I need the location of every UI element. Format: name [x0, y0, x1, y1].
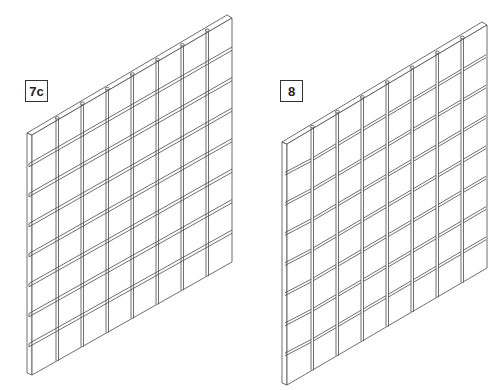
wire-cap [155, 58, 159, 60]
panel-label-text: 7c [29, 84, 43, 99]
wire-cap [335, 111, 339, 113]
wire-cap [55, 117, 59, 119]
grid-panel-8 [282, 22, 487, 385]
wire-cap [435, 51, 439, 53]
wire-cap [80, 102, 84, 104]
wire-cap [385, 81, 389, 83]
grid-panel-7c [27, 15, 232, 375]
panel-label-8: 8 [280, 80, 303, 102]
wire-cap [310, 125, 314, 127]
wire-cap [180, 44, 184, 46]
wire-cap [130, 73, 134, 75]
wire-cap [205, 29, 209, 31]
wire-cap [410, 66, 414, 68]
wire-cap [105, 87, 109, 89]
wire-cap [460, 36, 464, 38]
panel-label-text: 8 [288, 84, 295, 99]
panel-label-7c: 7c [25, 80, 48, 102]
frame-left-edge [282, 142, 287, 385]
frame-left-edge [27, 133, 32, 375]
wire-cap [360, 96, 364, 98]
wire-grid-panels-drawing [0, 0, 499, 390]
